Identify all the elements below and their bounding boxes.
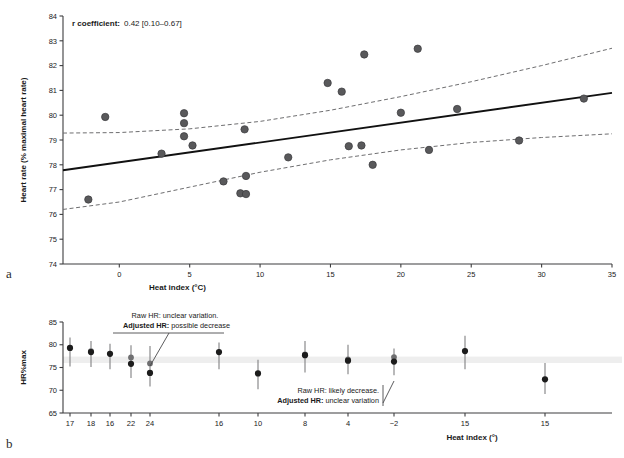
y-tick-label: 75: [49, 363, 57, 372]
x-tick-label: 25: [467, 270, 475, 279]
scatter-point: [515, 137, 522, 144]
panel-b-plot: 6570758085HR%max1718162224161084−21515He…: [19, 311, 622, 442]
scatter-point: [358, 142, 365, 149]
raw-hr-point: [107, 351, 113, 357]
scatter-point: [241, 126, 248, 133]
raw-hr-point: [255, 370, 261, 376]
scatter-point: [158, 150, 165, 157]
panel-b-chart: 6570758085HR%max1718162224161084−21515He…: [0, 300, 624, 458]
y-tick-label: 70: [49, 386, 57, 395]
y-tick-label: 78: [49, 161, 57, 170]
x-tick-label: −2: [390, 419, 399, 428]
y-tick-label: 76: [49, 210, 57, 219]
panel-a-svg: 747576777879808182838405101520253035Hear…: [0, 0, 624, 300]
r-coefficient-label: r coefficient:: [72, 19, 120, 28]
reference-band: [63, 357, 622, 363]
scatter-point: [180, 110, 187, 117]
x-tick-label: 8: [303, 419, 307, 428]
y-tick-label: 75: [49, 235, 57, 244]
scatter-point: [369, 161, 376, 168]
x-tick-label: 18: [87, 419, 95, 428]
ci-upper-curve: [63, 48, 612, 133]
scatter-point: [453, 105, 460, 112]
panel-a-label: a: [6, 266, 12, 282]
scatter-point: [85, 196, 92, 203]
annotation-1-bold: Adjusted HR:: [123, 321, 169, 330]
annotation-1-line1: Raw HR: unclear variation.: [132, 311, 219, 320]
x-tick-label: 16: [106, 419, 114, 428]
annotation-2-bold: Adjusted HR:: [277, 396, 323, 405]
scatter-point: [361, 51, 368, 58]
r-coefficient-value: 0.42 [0.10–0.67]: [124, 19, 182, 28]
x-axis-title: Heat index (°): [446, 433, 498, 442]
raw-hr-point: [147, 370, 153, 376]
x-tick-label: 20: [397, 270, 405, 279]
y-tick-label: 80: [49, 111, 57, 120]
ci-lower-curve: [63, 134, 612, 210]
annotation-2-rest: unclear variation: [323, 396, 379, 405]
scatter-point: [242, 172, 249, 179]
y-tick-label: 81: [49, 86, 57, 95]
scatter-point: [180, 119, 187, 126]
y-tick-label: 82: [49, 61, 57, 70]
scatter-point: [102, 113, 109, 120]
annotation-2-line1: Raw HR: likely decrease.: [297, 386, 379, 395]
annotation-1-line2: Adjusted HR: possible decrease: [123, 321, 230, 330]
raw-hr-point: [345, 358, 351, 364]
y-tick-label: 83: [49, 37, 57, 46]
x-tick-label: 17: [66, 419, 74, 428]
y-tick-label: 77: [49, 185, 57, 194]
raw-hr-point: [88, 349, 94, 355]
scatter-point: [242, 190, 249, 197]
y-tick-label: 79: [49, 136, 57, 145]
scatter-point: [580, 95, 587, 102]
x-tick-label: 16: [215, 419, 223, 428]
raw-hr-point: [216, 349, 222, 355]
scatter-point: [180, 133, 187, 140]
y-axis-title: Heart rate (% maximal heart rate): [19, 77, 28, 202]
panel-a-plot: 747576777879808182838405101520253035Hear…: [19, 12, 616, 292]
x-tick-label: 22: [127, 419, 135, 428]
panel-a-chart: 747576777879808182838405101520253035Hear…: [0, 0, 624, 300]
raw-hr-point: [302, 352, 308, 358]
x-tick-label: 10: [254, 419, 262, 428]
raw-hr-point: [67, 345, 73, 351]
x-tick-label: 5: [188, 270, 192, 279]
raw-hr-point: [542, 376, 548, 382]
annotation-2-line2: Adjusted HR: unclear variation: [277, 396, 379, 405]
annotation-2-leader: [383, 381, 394, 403]
annotation-1-rest: possible decrease: [169, 321, 230, 330]
x-tick-label: 10: [256, 270, 264, 279]
y-axis-title: HR%max: [19, 350, 28, 385]
x-tick-label: 4: [346, 419, 350, 428]
scatter-point: [220, 178, 227, 185]
y-tick-label: 74: [49, 260, 57, 269]
raw-hr-point: [462, 348, 468, 354]
x-tick-label: 15: [541, 419, 549, 428]
adjusted-hr-point: [128, 355, 134, 361]
raw-hr-point: [128, 361, 134, 367]
x-tick-label: 24: [146, 419, 154, 428]
scatter-point: [397, 109, 404, 116]
y-tick-label: 85: [49, 318, 57, 327]
scatter-point: [285, 154, 292, 161]
panel-b-svg: 6570758085HR%max1718162224161084−21515He…: [0, 300, 624, 458]
scatter-point: [345, 143, 352, 150]
scatter-point: [338, 88, 345, 95]
x-tick-label: 15: [326, 270, 334, 279]
x-axis-title: Heat index (°C): [149, 283, 206, 292]
scatter-point: [189, 142, 196, 149]
scatter-point: [414, 45, 421, 52]
x-tick-label: 15: [461, 419, 469, 428]
y-tick-label: 80: [49, 340, 57, 349]
raw-hr-point: [391, 358, 397, 364]
panel-b-label: b: [6, 436, 13, 452]
x-tick-label: 0: [117, 270, 121, 279]
scatter-point: [324, 79, 331, 86]
y-tick-label: 65: [49, 409, 57, 418]
x-tick-label: 30: [537, 270, 545, 279]
x-tick-label: 35: [608, 270, 616, 279]
scatter-point: [425, 146, 432, 153]
figure-container: 747576777879808182838405101520253035Hear…: [0, 0, 624, 458]
y-tick-label: 84: [49, 12, 57, 21]
